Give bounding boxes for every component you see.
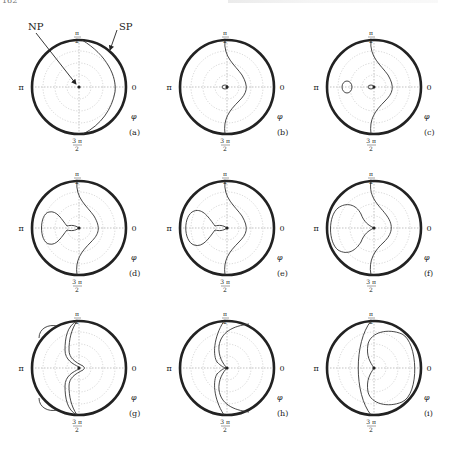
svg-text:φ: φ <box>424 253 430 262</box>
svg-text:3 π: 3 π <box>366 137 376 144</box>
svg-text:3 π: 3 π <box>220 418 230 425</box>
panel-c <box>327 40 421 134</box>
svg-text:2: 2 <box>369 145 373 152</box>
svg-text:φ: φ <box>131 112 137 121</box>
panel-e <box>180 181 274 275</box>
svg-text:π: π <box>18 364 23 373</box>
svg-text:2: 2 <box>223 426 227 433</box>
svg-text:0: 0 <box>131 224 136 233</box>
svg-text:2: 2 <box>369 286 373 293</box>
svg-text:2: 2 <box>75 37 79 44</box>
svg-text:0: 0 <box>279 83 284 92</box>
svg-text:φ: φ <box>424 112 430 121</box>
label-pi-half-num: π <box>75 29 79 36</box>
panel-label: (c) <box>424 128 435 137</box>
np-label: NP <box>28 21 44 32</box>
svg-text:3 π: 3 π <box>72 418 82 425</box>
svg-text:3 π: 3 π <box>220 137 230 144</box>
svg-text:2: 2 <box>369 37 373 44</box>
svg-text:2: 2 <box>75 286 79 293</box>
panel-i <box>327 321 421 415</box>
svg-text:2: 2 <box>223 178 227 185</box>
svg-text:0: 0 <box>131 364 136 373</box>
panel-label: (b) <box>277 128 288 137</box>
svg-text:0: 0 <box>131 83 136 92</box>
svg-text:3 π: 3 π <box>366 418 376 425</box>
svg-text:φ: φ <box>277 253 283 262</box>
svg-text:π: π <box>75 310 79 317</box>
svg-text:π: π <box>313 364 318 373</box>
svg-text:π: π <box>166 224 171 233</box>
sp-arrow <box>110 30 117 50</box>
svg-text:φ: φ <box>277 112 283 121</box>
panel-label: (h) <box>277 409 288 418</box>
svg-text:π: π <box>369 310 373 317</box>
panel-g <box>32 321 126 415</box>
svg-text:2: 2 <box>75 426 79 433</box>
svg-text:π: π <box>75 170 79 177</box>
panel-d <box>32 181 126 275</box>
svg-text:2: 2 <box>223 286 227 293</box>
svg-text:3 π: 3 π <box>220 278 230 285</box>
svg-text:0: 0 <box>426 83 431 92</box>
svg-text:π: π <box>313 224 318 233</box>
svg-text:2: 2 <box>369 426 373 433</box>
svg-text:π: π <box>223 29 227 36</box>
panel-label: (g) <box>129 409 140 418</box>
panel-label: (d) <box>129 269 140 278</box>
svg-text:π: π <box>223 310 227 317</box>
svg-text:2: 2 <box>369 318 373 325</box>
svg-text:2: 2 <box>223 37 227 44</box>
panel-f <box>327 181 421 275</box>
svg-text:0: 0 <box>426 364 431 373</box>
svg-text:0: 0 <box>279 364 284 373</box>
panel-label: (a) <box>129 128 140 137</box>
svg-text:2: 2 <box>369 178 373 185</box>
panel-label: (e) <box>277 269 288 278</box>
svg-text:2: 2 <box>75 145 79 152</box>
svg-text:π: π <box>166 364 171 373</box>
svg-text:π: π <box>166 83 171 92</box>
svg-text:π: π <box>313 83 318 92</box>
svg-text:3 π: 3 π <box>72 278 82 285</box>
svg-text:π: π <box>369 170 373 177</box>
polar-figure-grid: π 2 3 π 2 π 0 φ (a) NP SP π 2 3 π 2 π 0 … <box>0 0 457 457</box>
svg-text:0: 0 <box>426 224 431 233</box>
svg-text:2: 2 <box>223 145 227 152</box>
svg-text:0: 0 <box>279 224 284 233</box>
svg-text:2: 2 <box>75 178 79 185</box>
panel-label: (i) <box>424 409 433 418</box>
panel-label: (f) <box>424 269 433 278</box>
svg-text:φ: φ <box>277 393 283 402</box>
svg-text:π: π <box>18 224 23 233</box>
svg-text:π: π <box>18 83 23 92</box>
svg-text:φ: φ <box>424 393 430 402</box>
svg-text:2: 2 <box>223 318 227 325</box>
panel-b <box>180 40 274 134</box>
panel-a <box>32 30 126 134</box>
svg-text:π: π <box>369 29 373 36</box>
panel-h <box>180 321 274 415</box>
svg-text:π: π <box>223 170 227 177</box>
svg-text:3 π: 3 π <box>366 278 376 285</box>
svg-text:3 π: 3 π <box>72 137 82 144</box>
svg-text:2: 2 <box>75 318 79 325</box>
svg-text:φ: φ <box>131 393 137 402</box>
sp-label: SP <box>119 21 133 32</box>
svg-text:φ: φ <box>131 253 137 262</box>
